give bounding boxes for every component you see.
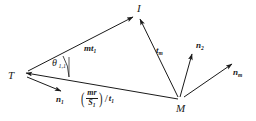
point-label-T: T — [8, 70, 14, 81]
vector-diagram: T I M mt1 tm n1 n2 nm θ1,1 ( mr S1 ) / t… — [0, 0, 256, 121]
vector-tm-line — [140, 19, 178, 97]
formula-numerator: mr — [86, 89, 97, 98]
vector-label-n2: n2 — [196, 41, 204, 50]
theta-symbol: θ — [52, 57, 57, 68]
vector-mt1-sub: 1 — [94, 48, 97, 54]
vector-n2-sub: 2 — [201, 45, 204, 51]
vector-nm-sub: m — [238, 72, 242, 78]
formula-denominator: S1 — [87, 99, 96, 108]
vector-label-mt1: mt1 — [84, 44, 96, 53]
formula-divisor: t1 — [109, 93, 114, 103]
formula-divisor-sub: 1 — [111, 98, 114, 104]
formula-fraction: mr S1 — [86, 89, 97, 107]
point-label-M: M — [176, 103, 185, 114]
vector-mt1-base: mt — [84, 43, 94, 53]
angle-label-theta: θ1,1 — [52, 58, 66, 68]
vector-n2-line — [180, 54, 192, 97]
theta-subscript: 1,1 — [58, 63, 66, 69]
vector-tm-sub: m — [159, 50, 163, 56]
vector-nm-line — [184, 64, 232, 97]
formula-mr-over-s1-over-t1: ( mr S1 ) / t1 — [80, 89, 114, 107]
vector-n1-line — [27, 77, 61, 91]
diagram-canvas — [0, 0, 256, 121]
vector-label-tm: tm — [156, 46, 163, 55]
vector-n1-sub: 1 — [61, 99, 64, 105]
vector-mt1-line — [28, 17, 133, 71]
vector-label-n1: n1 — [56, 95, 64, 104]
formula-open-paren: ( — [81, 90, 85, 107]
formula-close-paren: ) — [99, 90, 103, 107]
formula-slash: / — [105, 92, 108, 104]
point-label-I: I — [137, 3, 141, 14]
vector-label-nm: nm — [233, 68, 242, 77]
